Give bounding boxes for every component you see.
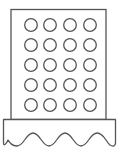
circle-icon [84,19,97,32]
circle-icon [84,99,97,112]
scalloped-base-icon [4,120,116,147]
circle-icon [44,59,57,72]
circle-icon [25,39,38,52]
circle-icon [64,19,77,32]
circle-icon [25,79,38,92]
circle-icon [44,99,57,112]
circle-icon [64,39,77,52]
circle-icon [64,59,77,72]
circle-icon [84,59,97,72]
circle-icon [25,19,38,32]
circle-icon [64,99,77,112]
circle-icon [25,99,38,112]
pastry-tray-icon [0,0,122,148]
circle-icon [44,79,57,92]
circle-icon [25,59,38,72]
circle-icon [44,19,57,32]
circle-icon [84,79,97,92]
circle-icon [44,39,57,52]
circle-icon [64,79,77,92]
circle-icon [84,39,97,52]
